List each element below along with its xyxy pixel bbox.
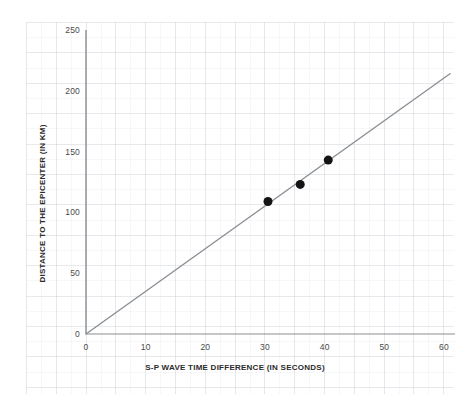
x-axis-title: S-P WAVE TIME DIFFERENCE (IN SECONDS) (0, 363, 470, 372)
y-tick-label: 0 (44, 329, 80, 339)
x-tick-label: 0 (66, 342, 106, 352)
data-point-marker (324, 156, 333, 165)
y-tick-label: 250 (44, 25, 80, 35)
x-tick-label: 50 (364, 342, 404, 352)
x-tick-label: 10 (126, 342, 166, 352)
data-point-marker (296, 180, 305, 189)
x-tick-label: 40 (305, 342, 345, 352)
x-tick-label: 30 (245, 342, 285, 352)
y-tick-label: 50 (44, 268, 80, 278)
axes (86, 30, 455, 334)
chart-screenshot: 050100150200250 0102030405060 S-P WAVE T… (0, 0, 470, 412)
y-tick-label: 150 (44, 147, 80, 157)
data-point-marker (263, 197, 272, 206)
x-tick-label: 60 (424, 342, 464, 352)
station-reading-markers (263, 156, 332, 206)
y-tick-label: 100 (44, 207, 80, 217)
y-axis-title: DISTANCE TO THE EPICENTER (IN KM) (38, 104, 47, 304)
x-tick-label: 20 (185, 342, 225, 352)
y-tick-label: 200 (44, 86, 80, 96)
